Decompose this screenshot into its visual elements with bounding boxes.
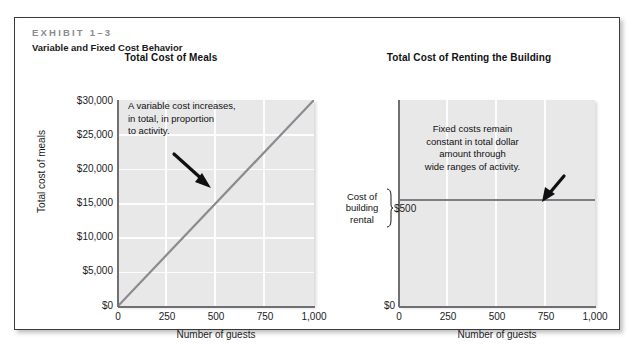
exhibit-frame: EXHIBIT 1–3 Variable and Fixed Cost Beha… xyxy=(14,17,620,330)
x-tick-right-4: 1,000 xyxy=(575,312,615,322)
arrow-pointing-to-variable-cost-line xyxy=(171,151,217,193)
x-axis-label-right: Number of guests xyxy=(399,329,595,340)
x-tick-right-0: 0 xyxy=(379,312,419,322)
arrow-pointing-to-fixed-cost-line xyxy=(539,173,569,205)
building-rental-callout: Cost of building rental $500 xyxy=(340,188,416,228)
x-tick-left-3: 750 xyxy=(245,312,285,322)
y-tick-left-6: $0 xyxy=(21,301,113,311)
y-tick-right-0: $0 xyxy=(321,301,395,311)
x-axis-left xyxy=(118,306,315,308)
exhibit-number: EXHIBIT 1–3 xyxy=(32,27,352,39)
building-rental-value: $500 xyxy=(394,203,416,214)
chart-title-left: Total Cost of Meals xyxy=(21,52,321,63)
x-tick-left-2: 500 xyxy=(196,312,236,322)
x-axis-label-left: Number of guests xyxy=(118,329,314,340)
y-axis-label-left: Total cost of meals xyxy=(36,102,47,242)
annotation-fixed-cost: Fixed costs remain constant in total dol… xyxy=(395,123,550,173)
y-axis-left xyxy=(117,100,119,307)
x-tick-left-1: 250 xyxy=(147,312,187,322)
annotation-variable-cost: A variable cost increases, in total, in … xyxy=(128,100,288,138)
chart-panel-total-cost-of-renting: Total Cost of Renting the Building $0 0 … xyxy=(321,48,617,323)
brace-bracket-icon xyxy=(386,188,393,228)
x-tick-right-2: 500 xyxy=(477,312,517,322)
building-rental-label: Cost of building rental xyxy=(340,191,384,226)
x-tick-right-1: 250 xyxy=(428,312,468,322)
y-tick-left-5: $5,000 xyxy=(21,266,113,276)
chart-title-right: Total Cost of Renting the Building xyxy=(321,52,617,63)
x-tick-left-0: 0 xyxy=(98,312,138,322)
x-axis-right xyxy=(399,306,596,308)
x-tick-right-3: 750 xyxy=(526,312,566,322)
